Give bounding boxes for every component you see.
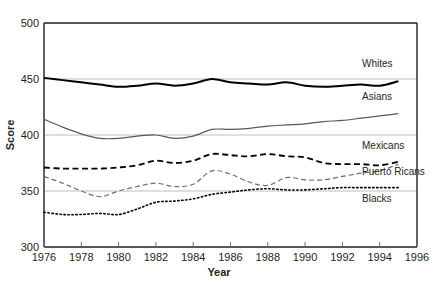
x-tick-label-1992: 1992: [330, 251, 354, 263]
y-axis-title: Score: [4, 120, 16, 151]
x-tick-label-1978: 1978: [69, 251, 93, 263]
series-label-blacks: Blacks: [362, 193, 391, 204]
x-tick-label-1976: 1976: [32, 251, 56, 263]
series-label-whites: Whites: [362, 58, 393, 69]
series-label-mexicans: Mexicans: [362, 140, 404, 151]
x-tick-label-1982: 1982: [144, 251, 168, 263]
x-tick-label-1986: 1986: [218, 251, 242, 263]
x-axis-title: Year: [207, 266, 231, 278]
series-line-mexicans: [44, 154, 398, 169]
x-tick-labels: 1976197819801982198419861988199019921994…: [32, 251, 429, 263]
y-tick-labels: 300350400450500: [21, 17, 39, 253]
y-tick-label-450: 450: [21, 73, 39, 85]
x-tick-label-1990: 1990: [293, 251, 317, 263]
x-tick-label-1988: 1988: [256, 251, 280, 263]
y-tick-label-500: 500: [21, 17, 39, 29]
y-tick-label-350: 350: [21, 185, 39, 197]
series-paths: [44, 78, 398, 215]
x-tick-label-1996: 1996: [405, 251, 429, 263]
x-tick-marks: [44, 242, 417, 247]
series-inline-labels: WhitesAsiansMexicansPuerto RicansBlacks: [362, 58, 425, 203]
series-line-blacks: [44, 188, 398, 215]
line-chart: 300350400450500 197619781980198219841986…: [0, 0, 438, 284]
y-tick-label-400: 400: [21, 129, 39, 141]
series-label-asians: Asians: [362, 91, 392, 102]
x-tick-label-1994: 1994: [367, 251, 391, 263]
chart-svg: 300350400450500 197619781980198219841986…: [0, 0, 438, 284]
series-label-puerto-ricans: Puerto Ricans: [362, 166, 425, 177]
x-tick-label-1980: 1980: [106, 251, 130, 263]
x-tick-label-1984: 1984: [181, 251, 205, 263]
